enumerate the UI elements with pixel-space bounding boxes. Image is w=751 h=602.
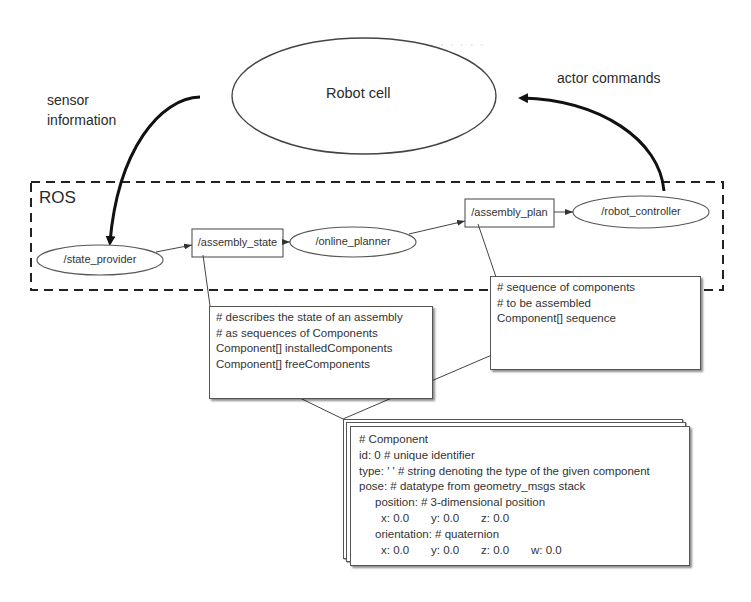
orientation-w: w: 0.0 (531, 543, 581, 559)
assembly-state-label: /assembly_state (192, 236, 283, 248)
assembly-plan-label: /assembly_plan (465, 206, 554, 218)
assembly-plan-note-connector (478, 224, 496, 277)
note-line: # as sequences of Components (216, 326, 426, 342)
edge-online-planner-to-assembly-plan (409, 221, 465, 234)
ros-group-label: ROS (39, 188, 76, 208)
component-position-values: x: 0.0y: 0.0z: 0.0 (359, 511, 681, 527)
orientation-x: x: 0.0 (381, 543, 431, 559)
note-line: # describes the state of an assembly (216, 310, 426, 326)
robot-controller-label: /robot_controller (573, 205, 709, 217)
assembly-plan-note: # sequence of components # to be assembl… (490, 276, 701, 370)
assembly-state-note-connector (203, 255, 210, 306)
component-pose-line: pose: # datatype from geometry_msgs stac… (359, 479, 681, 495)
component-orientation-line: orientation: # quaternion (359, 527, 681, 543)
component-message-box: # Component id: 0 # unique identifier ty… (350, 426, 690, 566)
note-line: Component[] freeComponents (216, 357, 426, 373)
component-title: # Component (359, 432, 681, 448)
component-type-line: type: ' ' # string denoting the type of … (359, 464, 681, 480)
state-provider-label: /state_provider (37, 253, 163, 265)
orientation-y: y: 0.0 (431, 543, 481, 559)
position-y: y: 0.0 (431, 511, 481, 527)
position-x: x: 0.0 (381, 511, 431, 527)
component-id-line: id: 0 # unique identifier (359, 448, 681, 464)
actor-commands-arrow (522, 98, 664, 191)
robot-cell-label: Robot cell (326, 85, 390, 101)
actor-commands-label: actor commands (557, 70, 660, 86)
edge-state-provider-to-assembly-state (156, 245, 192, 252)
online-planner-label: /online_planner (290, 235, 416, 247)
note-line: Component[] installedComponents (216, 341, 426, 357)
sensor-information-label-line2: information (47, 112, 116, 128)
assembly-state-note: # describes the state of an assembly # a… (209, 306, 433, 399)
component-position-line: position: # 3-dimensional position (359, 495, 681, 511)
orientation-z: z: 0.0 (481, 543, 531, 559)
note-line: Component[] sequence (497, 311, 694, 327)
note-line: # sequence of components (497, 280, 694, 296)
note-line: # to be assembled (497, 296, 694, 312)
sensor-information-arrow (110, 97, 200, 242)
component-orientation-values: x: 0.0y: 0.0z: 0.0w: 0.0 (359, 543, 681, 559)
sensor-information-label-line1: sensor (47, 92, 89, 108)
position-z: z: 0.0 (481, 511, 531, 527)
